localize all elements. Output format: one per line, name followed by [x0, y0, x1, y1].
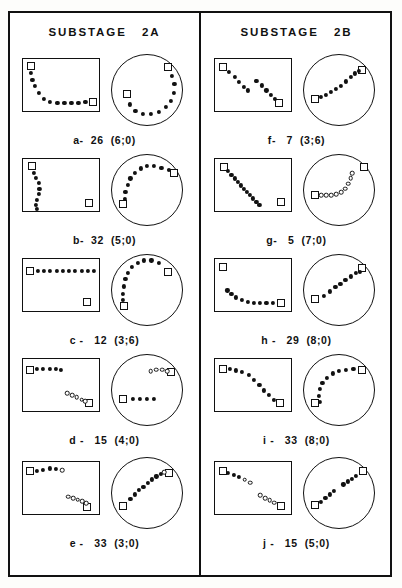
sample-point-filled — [246, 300, 250, 304]
sample-point-filled — [37, 181, 41, 185]
panel-h: h - 29 (8;0) — [201, 256, 392, 356]
sample-point-filled — [267, 393, 271, 397]
column-title-2a: SUBSTAGE 2A — [9, 26, 200, 38]
sample-point-filled — [34, 176, 38, 180]
sample-point-filled — [36, 269, 40, 273]
sample-point-filled — [55, 101, 59, 105]
panel-d-circle-plot — [111, 354, 183, 426]
panel-c-circle-plot — [111, 254, 183, 326]
sample-point-filled — [257, 383, 261, 387]
panel-c-label: c - 12 (3;6) — [9, 334, 200, 346]
sample-point-filled — [29, 70, 33, 74]
sample-point-filled — [54, 367, 58, 371]
endpoint-square-marker — [359, 467, 367, 475]
sample-point-filled — [232, 473, 236, 477]
sample-point-filled — [33, 84, 37, 88]
sample-point-filled — [83, 100, 87, 104]
panel-j-circle-plot — [303, 457, 375, 529]
sample-point-filled — [227, 70, 231, 74]
panel-a: a- 26 (6;0) — [9, 56, 200, 156]
panel-e: e - 33 (3;0) — [9, 459, 200, 559]
panel-g-rect-plot — [214, 158, 292, 212]
sample-point-open — [339, 190, 344, 195]
panel-b-plots — [9, 156, 200, 234]
sample-point-filled — [264, 301, 268, 305]
sample-point-filled — [42, 269, 46, 273]
sample-point-filled — [42, 97, 46, 101]
column-substage-2b: SUBSTAGE 2B f- 7 (3;6)g- 5 (7;0)h - 29 (… — [201, 11, 392, 577]
sample-point-open — [248, 480, 253, 485]
sample-point-filled — [62, 101, 66, 105]
sample-point-open — [272, 500, 277, 505]
sample-point-open — [329, 193, 334, 198]
panel-h-plots — [201, 256, 392, 334]
column-title-2b: SUBSTAGE 2B — [201, 26, 392, 38]
sample-point-filled — [232, 75, 236, 79]
sample-point-filled — [264, 88, 268, 92]
panel-i-plots — [201, 356, 392, 434]
sample-point-open — [334, 192, 339, 197]
panel-d-plots — [9, 356, 200, 434]
endpoint-square-marker — [119, 395, 127, 403]
endpoint-square-marker — [27, 62, 35, 70]
sample-point-filled — [69, 101, 73, 105]
sample-point-filled — [37, 187, 41, 191]
endpoint-square-marker — [219, 63, 227, 71]
endpoint-square-marker — [119, 200, 127, 208]
sample-point-open — [162, 470, 167, 475]
sample-point-filled — [257, 203, 261, 207]
sample-point-filled — [254, 79, 258, 83]
endpoint-square-marker — [164, 63, 172, 71]
panel-i: i - 33 (8;0) — [201, 356, 392, 456]
sample-point-filled — [246, 88, 250, 92]
panel-c-disc-outline — [111, 254, 183, 326]
sample-point-filled — [37, 91, 41, 95]
endpoint-square-marker — [170, 169, 178, 177]
panel-g-label: g- 5 (7;0) — [201, 234, 392, 246]
sample-point-filled — [86, 269, 90, 273]
sample-point-filled — [48, 100, 52, 104]
sample-point-filled — [35, 469, 39, 473]
endpoint-square-marker — [358, 366, 366, 374]
panel-j-rect-plot — [214, 461, 292, 515]
panel-e-disc-outline — [111, 457, 183, 529]
endpoint-square-marker — [26, 366, 34, 374]
sample-point-filled — [229, 292, 233, 296]
endpoint-square-marker — [28, 162, 36, 170]
panel-g: g- 5 (7;0) — [201, 156, 392, 256]
sample-point-filled — [228, 367, 232, 371]
panel-e-plots — [9, 459, 200, 537]
sample-point-filled — [92, 269, 96, 273]
endpoint-square-marker — [276, 399, 284, 407]
panel-i-disc-outline — [303, 354, 375, 426]
sample-point-open — [148, 369, 153, 374]
sample-point-open — [242, 478, 247, 483]
panel-b: b- 32 (5;0) — [9, 156, 200, 256]
panel-a-label: a- 26 (6;0) — [9, 134, 200, 146]
panel-h-rect-plot — [214, 258, 292, 312]
sample-point-filled — [32, 170, 36, 174]
sample-point-filled — [76, 101, 80, 105]
sample-point-open — [346, 181, 351, 186]
panel-f-disc-outline — [303, 54, 375, 126]
sample-point-filled — [37, 192, 41, 196]
sample-point-filled — [226, 471, 230, 475]
panel-a-circle-plot — [111, 54, 183, 126]
endpoint-square-marker — [83, 298, 91, 306]
sample-point-open — [154, 368, 159, 373]
panel-j: j - 15 (5;0) — [201, 459, 392, 559]
sample-point-filled — [239, 298, 243, 302]
panel-e-circle-plot — [111, 457, 183, 529]
sample-point-filled — [79, 269, 83, 273]
sample-point-filled — [47, 466, 51, 470]
panel-i-label: i - 33 (8;0) — [201, 434, 392, 446]
sample-point-filled — [54, 467, 58, 471]
sample-point-filled — [48, 269, 52, 273]
panel-b-label: b- 32 (5;0) — [9, 234, 200, 246]
panel-g-circle-plot — [303, 154, 375, 226]
sample-point-filled — [35, 197, 39, 201]
sample-point-filled — [258, 301, 262, 305]
sample-point-filled — [30, 77, 34, 81]
sample-point-open — [160, 368, 165, 373]
sample-point-filled — [35, 367, 39, 371]
